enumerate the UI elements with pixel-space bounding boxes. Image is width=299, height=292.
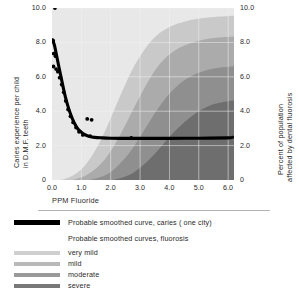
y-axis-right-title-line1: Percent of population bbox=[276, 104, 285, 175]
x-axis-title: PPM Fluoride bbox=[52, 196, 99, 205]
x-axis-tick-label: 6.0 bbox=[217, 184, 239, 192]
y-axis-right-tick-label: 6.0 bbox=[240, 73, 266, 81]
plot-area bbox=[52, 8, 234, 180]
caries-data-point bbox=[60, 83, 64, 87]
caries-data-point bbox=[58, 76, 62, 80]
chart-figure: 02.04.06.08.010.0 02.04.06.08.010.0 0.01… bbox=[0, 0, 299, 292]
caries-data-point bbox=[81, 133, 85, 137]
y-axis-right-tick-label: 8.0 bbox=[240, 38, 266, 46]
y-axis-left-tick-label: 8.0 bbox=[20, 38, 46, 46]
x-axis-tick-label: 3.0 bbox=[129, 184, 151, 192]
y-axis-right-title-line2: affected by dental fluorosis bbox=[285, 92, 294, 182]
x-axis-tick-label: 4.0 bbox=[158, 184, 180, 192]
caries-data-point bbox=[85, 117, 89, 121]
caries-data-point bbox=[53, 8, 57, 10]
caries-data-point bbox=[90, 118, 94, 122]
y-axis-right-tick-label: 0 bbox=[240, 176, 266, 184]
legend-swatch-severe bbox=[14, 284, 60, 288]
x-axis-tick-label: 0.0 bbox=[41, 184, 63, 192]
caries-data-point bbox=[62, 90, 66, 94]
legend-label-mild: mild bbox=[68, 259, 82, 268]
y-axis-right-tick-label: 10.0 bbox=[240, 4, 266, 12]
caries-data-point bbox=[56, 70, 60, 74]
caries-data-point bbox=[66, 108, 70, 112]
legend-label-fluorosis-header: Probable smoothed curves, fluorosis bbox=[68, 234, 188, 243]
y-axis-right-tick-label: 2.0 bbox=[240, 142, 266, 150]
legend-swatch-mild bbox=[14, 262, 60, 266]
y-axis-left-tick-label: 4.0 bbox=[20, 107, 46, 115]
x-axis-tick-label: 1.0 bbox=[70, 184, 92, 192]
legend-label-very-mild: very mild bbox=[68, 248, 98, 257]
caries-data-point bbox=[88, 134, 92, 138]
caries-data-point bbox=[74, 126, 78, 130]
caries-data-point bbox=[129, 136, 133, 140]
plot-canvas bbox=[52, 8, 234, 180]
caries-data-point bbox=[77, 130, 81, 134]
y-axis-left-tick-label: 6.0 bbox=[20, 73, 46, 81]
legend-divider bbox=[38, 210, 270, 211]
y-axis-left-tick-label: 0 bbox=[20, 176, 46, 184]
y-axis-left-tick-label: 10.0 bbox=[20, 4, 46, 12]
legend-swatch-moderate bbox=[14, 273, 60, 277]
y-axis-left-title-line1: Caries experience per child bbox=[12, 77, 21, 168]
caries-data-point bbox=[54, 54, 58, 58]
legend-swatch-caries bbox=[14, 220, 60, 225]
x-axis-tick-label: 5.0 bbox=[188, 184, 210, 192]
legend-label-severe: severe bbox=[68, 281, 90, 290]
caries-data-point bbox=[64, 99, 68, 103]
legend-swatch-very-mild bbox=[14, 251, 60, 255]
y-axis-right-tick-label: 4.0 bbox=[240, 107, 266, 115]
y-axis-left-title-line2: in D.M.F. teeth bbox=[21, 119, 30, 168]
legend-label-moderate: moderate bbox=[68, 270, 99, 279]
plot-background bbox=[52, 8, 234, 180]
caries-data-point bbox=[69, 114, 73, 118]
legend-label-caries: Probable smoothed curve, caries ( one ci… bbox=[68, 218, 212, 227]
x-axis-tick-label: 2.0 bbox=[100, 184, 122, 192]
caries-data-point bbox=[71, 120, 75, 124]
